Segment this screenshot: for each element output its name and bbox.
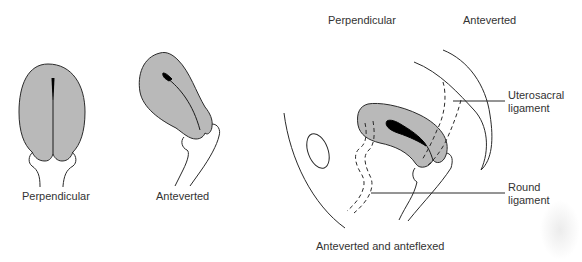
caption-anteverted-anteflexed: Anteverted and anteflexed xyxy=(316,240,444,253)
header-anteverted: Anteverted xyxy=(463,14,516,27)
header-perpendicular: Perpendicular xyxy=(328,14,396,27)
callout-round-line1: Round xyxy=(508,181,550,194)
sacrum-outer xyxy=(443,50,492,170)
callout-uterosacral-ligament: Uterosacral ligament xyxy=(508,89,564,115)
figure-drawing xyxy=(0,0,582,262)
pubic-bone xyxy=(302,131,333,172)
uterus-anteflexed xyxy=(357,103,447,167)
callout-uterosacral-line1: Uterosacral xyxy=(508,89,564,102)
caption-perpendicular: Perpendicular xyxy=(22,190,90,203)
pelvic-sagittal-view xyxy=(284,50,505,228)
abdominal-wall-line xyxy=(284,113,345,228)
scan-smudge xyxy=(540,200,580,260)
caption-anteverted: Anteverted xyxy=(156,190,209,203)
callout-uterosacral-line2: ligament xyxy=(508,102,564,115)
anteverted-uterus xyxy=(139,52,219,186)
perpendicular-uterus xyxy=(19,64,85,187)
uterine-positions-figure: Perpendicular Anteverted Perpendicular A… xyxy=(0,0,582,262)
